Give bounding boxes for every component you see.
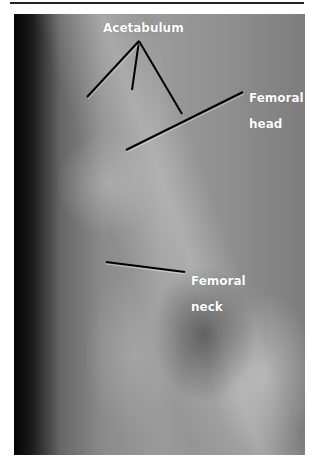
femoral-head-label-line1: Femoral [249,92,304,105]
femoral-neck-label: Femoral neck [191,262,246,327]
femoral-head-label-line2: head [249,118,304,131]
acetabulum-leader-right [139,41,182,114]
acetabulum-label: Acetabulum [103,22,184,35]
femoral-neck-leader [106,262,185,272]
femoral-head-leader [126,92,243,150]
femoral-neck-label-line1: Femoral [191,275,246,288]
leader-lines [0,0,316,467]
femoral-neck-label-line2: neck [191,301,246,314]
femoral-head-label: Femoral head [249,79,304,144]
